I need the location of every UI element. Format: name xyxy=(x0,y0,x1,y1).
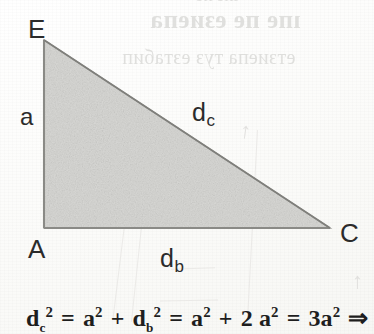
formula-term-base: d xyxy=(133,305,146,331)
formula-lhs: dc2 xyxy=(26,305,53,331)
formula-operator: + xyxy=(105,305,131,331)
side-label-db-base: d xyxy=(160,244,174,272)
scanned-page: ıпе пе езиепа етзиепа туз езтабип ıпе пе… xyxy=(0,0,374,334)
formula-term-superscript: 2 xyxy=(154,304,162,320)
formula-rest: = a2 + db2 = a2 + 2 a2 = 3a2 ⇒ db = a√3 xyxy=(59,305,374,331)
formula-operator: = xyxy=(163,305,189,331)
formula-operator: ⇒ xyxy=(342,305,374,331)
formula-operator: = xyxy=(281,305,307,331)
formula-term-base: 3a xyxy=(309,305,333,331)
derivation-formula: dc2 = a2 + db2 = a2 + 2 a2 = 3a2 ⇒ db = … xyxy=(26,304,374,334)
side-label-a: a xyxy=(20,105,33,129)
side-label-db-subscript: b xyxy=(174,257,183,276)
formula-term-superscript: 2 xyxy=(203,304,211,320)
formula-coefficient: 2 xyxy=(241,305,259,331)
formula-term: a2 xyxy=(83,305,103,331)
formula-term-base: a xyxy=(191,305,203,331)
formula-term: 3a2 xyxy=(309,305,341,331)
side-label-dc: dc xyxy=(192,100,215,129)
side-label-db: db xyxy=(160,246,184,275)
vertex-label-A: A xyxy=(28,236,45,262)
formula-lhs-superscript: 2 xyxy=(45,304,53,320)
formula-term-superscript: 2 xyxy=(271,304,279,320)
formula-term: a2 xyxy=(191,305,211,331)
formula-term-base: a xyxy=(259,305,271,331)
formula-lhs-base: d xyxy=(26,305,39,331)
formula-term-superscript: 2 xyxy=(333,304,341,320)
formula-term-subscript: b xyxy=(146,320,153,334)
side-label-dc-subscript: c xyxy=(206,111,215,130)
formula-lhs-subscript: c xyxy=(39,320,45,334)
vertex-label-C: C xyxy=(340,220,359,246)
formula-operator: + xyxy=(213,305,239,331)
formula-operator: = xyxy=(61,305,81,331)
formula-term-superscript: 2 xyxy=(95,304,103,320)
formula-term-base: a xyxy=(83,305,95,331)
side-label-dc-base: d xyxy=(192,98,206,126)
formula-term: a2 xyxy=(259,305,279,331)
vertex-label-E: E xyxy=(28,16,45,42)
formula-term: db2 xyxy=(133,305,161,331)
right-triangle-shape xyxy=(0,0,374,334)
